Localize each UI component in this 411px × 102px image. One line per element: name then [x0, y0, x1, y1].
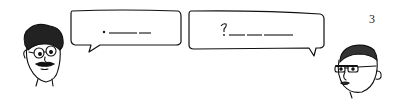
speech-bubble-left	[71, 10, 181, 52]
speech-bubble-right-text	[221, 24, 293, 36]
speech-bubble-left-text	[103, 31, 151, 33]
right-character-face	[335, 45, 381, 98]
comic-panel	[0, 0, 411, 102]
left-character-face	[24, 24, 63, 86]
speech-bubble-right	[189, 11, 324, 56]
